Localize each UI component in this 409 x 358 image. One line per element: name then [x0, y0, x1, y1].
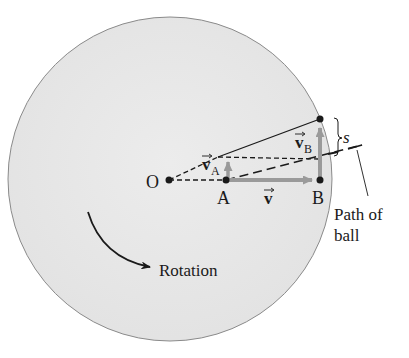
label-point-a: A [217, 188, 230, 208]
label-point-b: B [312, 188, 324, 208]
path-tick-2 [348, 145, 362, 149]
point-o [166, 177, 173, 184]
label-deflection-s: s [343, 128, 350, 147]
label-origin: O [146, 172, 159, 192]
label-path-of-ball-line1: Path of [334, 205, 383, 224]
point-a [223, 177, 230, 184]
label-rotation: Rotation [159, 261, 218, 280]
coriolis-diagram: O A B v v A v B s Path of ball Rotation [0, 0, 409, 358]
point-top [317, 116, 324, 123]
label-velocity-a-sub: A [211, 164, 220, 178]
point-b [317, 177, 324, 184]
path-of-ball-leader [357, 150, 368, 196]
label-path-of-ball-line2: ball [334, 226, 360, 245]
label-velocity-b-sub: B [304, 142, 312, 156]
